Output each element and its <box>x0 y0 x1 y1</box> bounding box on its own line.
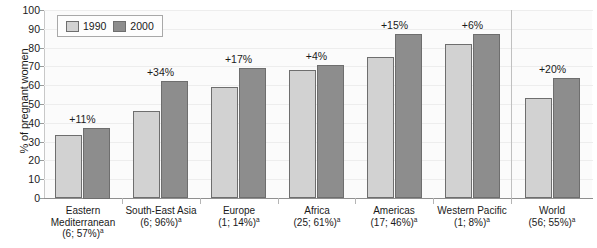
y-tick-label: 40 <box>0 118 40 128</box>
footnote-superscript: a <box>178 215 182 222</box>
bar-1990 <box>525 98 552 198</box>
y-tick-mark <box>40 104 44 105</box>
y-tick-mark <box>40 198 44 199</box>
category-name: World <box>511 205 593 217</box>
category-name: Europe <box>200 205 278 217</box>
y-tick-mark <box>40 179 44 180</box>
y-tick-mark <box>40 142 44 143</box>
group-separator <box>511 10 512 198</box>
bar-2000 <box>83 128 110 199</box>
bar-delta-label: +15% <box>353 20 436 31</box>
x-axis-category-label: Americas(17; 46%)a <box>355 205 433 228</box>
footnote-superscript: a <box>486 215 490 222</box>
bar-1990 <box>445 44 472 198</box>
x-axis-category-label: Africa(25; 61%)a <box>278 205 356 228</box>
y-tick-label: 0 <box>0 193 40 203</box>
bar-delta-label: +11% <box>41 114 124 125</box>
cropped-title-artifact <box>0 0 597 4</box>
x-axis-separator <box>433 198 434 204</box>
category-name: Africa <box>278 205 356 217</box>
x-axis-category-label: Eastern Mediterranean(6; 57%)a <box>44 205 122 240</box>
y-tick-mark <box>40 29 44 30</box>
bar-delta-label: +6% <box>431 20 514 31</box>
y-tick-label: 90 <box>0 24 40 34</box>
bar-delta-label: +20% <box>511 64 594 75</box>
x-axis-separator <box>511 198 512 204</box>
y-tick-label: 50 <box>0 99 40 109</box>
bar-2000 <box>553 78 580 198</box>
category-name: Eastern Mediterranean <box>44 205 122 228</box>
bar-2000 <box>239 68 266 198</box>
bar-chart: % of pregnant women 10090807060504030201… <box>0 0 597 248</box>
bar-delta-label: +17% <box>197 54 280 65</box>
bar-2000 <box>473 34 500 198</box>
y-tick-mark <box>40 85 44 86</box>
y-tick-label: 30 <box>0 137 40 147</box>
x-axis-separator <box>278 198 279 204</box>
legend-swatch-1990 <box>66 21 79 32</box>
bar-delta-label: +4% <box>275 51 358 62</box>
legend-label-1990: 1990 <box>83 21 106 32</box>
legend: 1990 2000 <box>57 15 163 37</box>
bar-2000 <box>161 81 188 198</box>
y-tick-label: 100 <box>0 5 40 15</box>
bar-delta-label: +34% <box>119 67 202 78</box>
legend-label-2000: 2000 <box>130 21 153 32</box>
legend-item-1990: 1990 <box>66 21 106 32</box>
category-sublabel: (56; 55%)a <box>511 217 593 229</box>
y-tick-label: 20 <box>0 155 40 165</box>
footnote-superscript: a <box>256 215 260 222</box>
x-axis-separator <box>200 198 201 204</box>
bar-2000 <box>395 34 422 198</box>
y-tick-label: 80 <box>0 43 40 53</box>
category-sublabel: (6; 57%)a <box>44 228 122 240</box>
legend-swatch-2000 <box>113 21 126 32</box>
category-sublabel: (1; 14%)a <box>200 217 278 229</box>
x-axis-category-label: World(56; 55%)a <box>511 205 593 228</box>
x-axis-separator <box>122 198 123 204</box>
bar-1990 <box>55 135 82 198</box>
y-tick-mark <box>40 66 44 67</box>
y-tick-mark <box>40 10 44 11</box>
category-sublabel: (6; 96%)a <box>122 217 200 229</box>
bar-1990 <box>133 111 160 198</box>
footnote-superscript: a <box>572 215 576 222</box>
footnote-superscript: a <box>414 215 418 222</box>
x-axis-category-label: Western Pacific(1; 8%)a <box>433 205 511 228</box>
category-name: Americas <box>355 205 433 217</box>
x-axis-category-label: South-East Asia(6; 96%)a <box>122 205 200 228</box>
category-sublabel: (25; 61%)a <box>278 217 356 229</box>
category-sublabel: (1; 8%)a <box>433 217 511 229</box>
x-axis-category-label: Europe(1; 14%)a <box>200 205 278 228</box>
y-tick-mark <box>40 48 44 49</box>
category-name: South-East Asia <box>122 205 200 217</box>
y-tick-label: 10 <box>0 174 40 184</box>
bar-1990 <box>211 87 238 198</box>
y-tick-label: 70 <box>0 61 40 71</box>
y-tick-mark <box>40 160 44 161</box>
category-sublabel: (17; 46%)a <box>355 217 433 229</box>
category-name: Western Pacific <box>433 205 511 217</box>
footnote-superscript: a <box>100 227 104 234</box>
x-axis-separator <box>355 198 356 204</box>
bar-2000 <box>317 65 344 198</box>
legend-item-2000: 2000 <box>113 21 153 32</box>
bar-1990 <box>289 70 316 198</box>
footnote-superscript: a <box>337 215 341 222</box>
y-tick-label: 60 <box>0 80 40 90</box>
bar-1990 <box>367 57 394 198</box>
